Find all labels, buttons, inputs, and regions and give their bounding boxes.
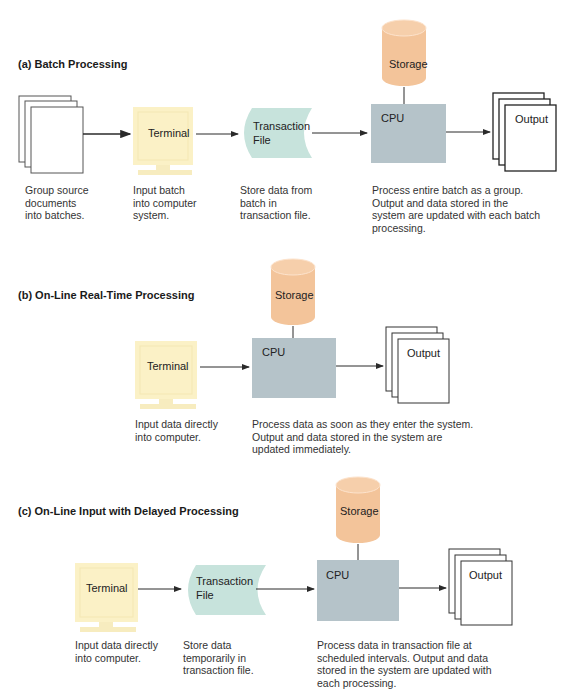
- terminal-icon: [75, 563, 138, 632]
- transaction-file-label: Transaction: [196, 575, 253, 587]
- caption-cpu: Process data as soon as they enter the s…: [252, 418, 473, 456]
- caption-cpu: Process entire batch as a group. Output …: [372, 184, 540, 234]
- caption-transaction-file: Store data temporarily in transaction fi…: [183, 639, 254, 677]
- transaction-file-label: File: [253, 134, 271, 146]
- cpu-label: CPU: [381, 112, 404, 124]
- terminal-label: Terminal: [148, 127, 190, 139]
- output-label: Output: [407, 347, 440, 359]
- section-c-shapes: [75, 477, 512, 632]
- transaction-file-label: Transaction: [253, 120, 310, 132]
- section-a-shapes: [19, 20, 556, 175]
- caption-terminal: Input data directly into computer.: [75, 639, 158, 664]
- section-b-shapes: [135, 259, 449, 409]
- caption-terminal: Input batch into computer system.: [133, 184, 197, 222]
- diagram-shapes: [0, 0, 574, 699]
- storage-label: Storage: [389, 58, 428, 70]
- caption-cpu: Process data in transaction file at sche…: [317, 639, 492, 689]
- storage-label: Storage: [275, 289, 314, 301]
- storage-label: Storage: [340, 505, 379, 517]
- caption-documents: Group source documents into batches.: [25, 184, 89, 222]
- output-documents-icon: [493, 93, 556, 171]
- terminal-icon: [135, 341, 197, 409]
- caption-terminal: Input data directly into computer.: [135, 418, 218, 443]
- terminal-icon: [133, 107, 193, 175]
- output-documents-icon: [449, 549, 512, 625]
- transaction-file-label: File: [196, 589, 214, 601]
- transaction-file-icon: [244, 108, 312, 158]
- cpu-label: CPU: [326, 569, 349, 581]
- terminal-label: Terminal: [86, 582, 128, 594]
- output-label: Output: [515, 113, 548, 125]
- caption-transaction-file: Store data from batch in transaction fil…: [240, 184, 312, 222]
- cpu-label: CPU: [262, 346, 285, 358]
- section-title: (c) On-Line Input with Delayed Processin…: [18, 505, 239, 517]
- storage-icon: [382, 20, 426, 86]
- section-title: (a) Batch Processing: [18, 58, 127, 70]
- section-title: (b) On-Line Real-Time Processing: [18, 289, 194, 301]
- terminal-label: Terminal: [147, 360, 189, 372]
- output-documents-icon: [386, 327, 449, 403]
- output-label: Output: [469, 569, 502, 581]
- documents-icon: [19, 96, 83, 173]
